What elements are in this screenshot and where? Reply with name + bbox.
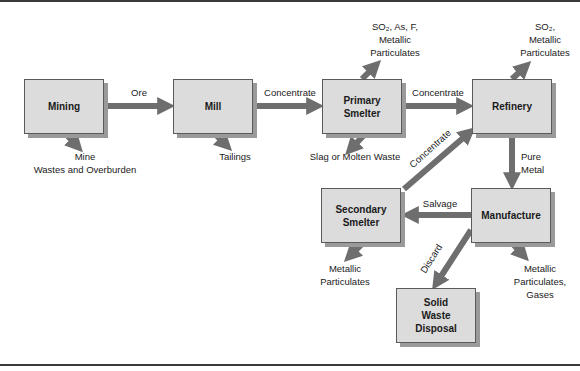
arrow-discard [436, 230, 471, 284]
label-mine-wastes: Mine Wastes and Overburden [30, 150, 140, 176]
arrow-secondary-particulates [349, 243, 363, 257]
node-mill: Mill [173, 79, 253, 134]
node-mining: Mining [24, 79, 104, 134]
arrow-refinery-emissions [512, 66, 526, 79]
label-refinery-emissions: SO₂, Metallic Particulates [510, 20, 580, 59]
arrow-smelter-emissions [362, 65, 376, 79]
label-secondary-particulates: Metallic Particulates [315, 262, 375, 288]
label-ore: Ore [124, 86, 154, 99]
node-primary-smelter: Primary Smelter [322, 79, 402, 134]
arrow-mine-waste [66, 134, 78, 147]
node-secondary-smelter: Secondary Smelter [321, 188, 401, 243]
arrow-layer [0, 0, 580, 371]
label-salvage: Salvage [415, 197, 465, 210]
arrow-slag [350, 135, 364, 150]
node-solid-waste-disposal: Solid Waste Disposal [396, 288, 476, 343]
node-manufacture: Manufacture [471, 188, 551, 243]
label-slag: Slag or Molten Waste [300, 150, 410, 163]
bottom-rule [0, 364, 580, 366]
label-primary-emissions: SO₂, As, F, Metallic Particulates [360, 20, 430, 59]
label-smelter-concentrate: Concentrate [408, 86, 468, 99]
label-tailings: Tailings [215, 150, 255, 163]
arrow-manufacture-particulates [512, 243, 524, 256]
arrow-tailings [215, 134, 227, 146]
label-mill-concentrate: Concentrate [260, 86, 320, 99]
node-refinery: Refinery [472, 79, 552, 134]
label-pure-metal: Pure Metal [521, 150, 551, 176]
label-manufacture-particulates: Metallic Particulates, Gases [505, 262, 575, 301]
